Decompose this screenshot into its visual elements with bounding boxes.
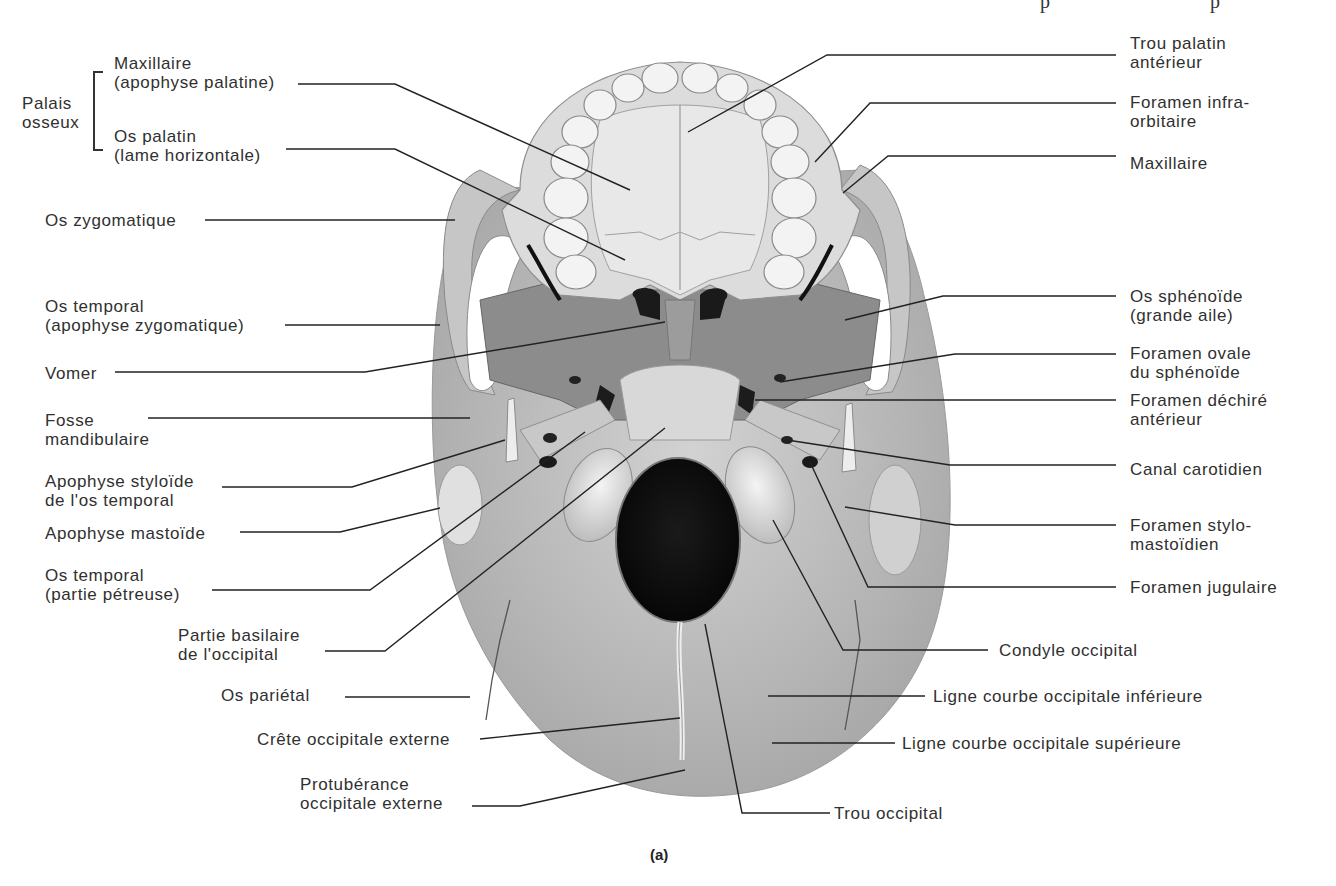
label-fosse-mandibulaire: Fossemandibulaire	[45, 411, 150, 449]
label-apophyse-mastoide: Apophyse mastoïde	[45, 524, 205, 543]
label-maxillaire: Maxillaire	[1130, 154, 1208, 173]
label-foramen-stylo-mastoidien: Foramen stylo-mastoïdien	[1130, 516, 1252, 554]
label-os-zygomatique: Os zygomatique	[45, 211, 176, 230]
jugular-foramen-left	[539, 456, 557, 468]
label-partie-basilaire: Partie basilairede l'occipital	[178, 626, 300, 664]
label-trou-occipital: Trou occipital	[834, 804, 943, 823]
label-foramen-jugulaire: Foramen jugulaire	[1130, 578, 1277, 597]
mastoid-process-right	[869, 465, 921, 575]
vomer-bone	[665, 300, 695, 360]
basilar-occipital	[620, 365, 740, 440]
label-protuberance-occipitale-externe: Protubéranceoccipitale externe	[300, 775, 443, 813]
label-condyle-occipital: Condyle occipital	[999, 641, 1138, 660]
skull-inferior-view-figure: p p	[0, 0, 1336, 886]
mastoid-process-left	[438, 465, 482, 545]
label-maxillaire-apophyse-palatine: Maxillaire(apophyse palatine)	[114, 54, 275, 92]
label-ligne-courbe-inferieure: Ligne courbe occipitale inférieure	[933, 687, 1203, 706]
foramen-ovale-left	[569, 376, 581, 384]
label-foramen-infra-orbitaire: Foramen infra-orbitaire	[1130, 93, 1250, 131]
label-os-sphenoide: Os sphénoïde(grande aile)	[1130, 287, 1243, 325]
label-apophyse-styloide: Apophyse styloïdede l'os temporal	[45, 472, 194, 510]
figure-caption: (a)	[650, 846, 668, 863]
carotid-canal-left	[543, 433, 557, 443]
label-foramen-ovale: Foramen ovaledu sphénoïde	[1130, 344, 1251, 382]
label-crete-occipitale-externe: Crête occipitale externe	[257, 730, 450, 749]
label-os-palatin: Os palatin(lame horizontale)	[114, 127, 261, 165]
label-canal-carotidien: Canal carotidien	[1130, 460, 1262, 479]
group-bracket	[93, 71, 103, 151]
label-ligne-courbe-superieure: Ligne courbe occipitale supérieure	[902, 734, 1181, 753]
label-os-parietal: Os pariétal	[221, 686, 310, 705]
label-os-temporal-apophyse-zygomatique: Os temporal(apophyse zygomatique)	[45, 297, 244, 335]
label-foramen-dechire-anterieur: Foramen déchiréantérieur	[1130, 391, 1268, 429]
foramen-magnum	[616, 458, 740, 622]
label-trou-palatin-anterieur: Trou palatinantérieur	[1130, 34, 1226, 72]
group-label-palais-osseux: Palais osseux	[22, 94, 79, 132]
label-vomer: Vomer	[45, 364, 97, 383]
label-os-temporal-partie-petreuse: Os temporal(partie pétreuse)	[45, 566, 180, 604]
